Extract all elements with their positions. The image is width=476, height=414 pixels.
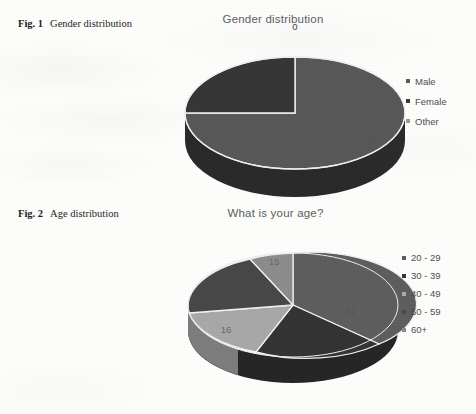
legend-label: 50 - 59 (411, 306, 441, 317)
legend-item-20-29[interactable]: 20 - 29 (402, 249, 441, 266)
pie-1-slice-female (185, 57, 295, 113)
legend-item-40-49[interactable]: 40 - 49 (402, 285, 441, 302)
legend-swatch-icon (406, 119, 410, 123)
pie-chart-2-svg (178, 233, 408, 383)
figure-1-label: Fig. 1 (18, 18, 43, 29)
chart-2-title: What is your age? (140, 207, 411, 219)
pie-1-label-male: 90 (365, 133, 376, 144)
chart-gender-distribution: Gender distribution 0 90 (150, 10, 476, 200)
legend-label: 30 - 39 (411, 270, 441, 281)
pie-2-label-20-29: 41 (345, 306, 356, 317)
figure-2-text: Age distribution (50, 208, 119, 219)
chart-1-legend: Male Female Other (406, 72, 447, 132)
figure-2-caption: Fig. 2Age distribution (18, 208, 119, 219)
pie-2-label-40-49: 16 (221, 324, 232, 335)
legend-swatch-icon (402, 256, 406, 260)
pie-chart-1-stage: 0 90 (180, 38, 410, 188)
legend-item-female[interactable]: Female (406, 92, 447, 110)
pie-1-label-other: 0 (292, 21, 297, 32)
legend-swatch-icon (402, 310, 406, 314)
legend-swatch-icon (402, 328, 406, 332)
figure-1-text: Gender distribution (50, 18, 132, 29)
pie-chart-1-svg (180, 38, 410, 188)
legend-item-other[interactable]: Other (406, 112, 447, 130)
legend-swatch-icon (402, 274, 406, 278)
chart-2-legend: 20 - 29 30 - 39 40 - 49 50 - 59 60+ (402, 249, 441, 339)
figure-1-caption: Fig. 1Gender distribution (18, 18, 132, 29)
pie-chart-2-stage: 41 16 21 15 (178, 233, 408, 383)
legend-label: Male (415, 76, 436, 87)
legend-swatch-icon (402, 292, 406, 296)
legend-swatch-icon (406, 79, 410, 83)
legend-item-male[interactable]: Male (406, 72, 447, 90)
legend-label: 20 - 29 (411, 252, 441, 263)
legend-label: 40 - 49 (411, 288, 441, 299)
legend-label: Other (415, 116, 439, 127)
legend-swatch-icon (406, 99, 410, 103)
pie-2-label-60plus: 15 (269, 256, 280, 267)
legend-label: 60+ (411, 324, 427, 335)
chart-age-distribution: What is your age? (150, 205, 476, 410)
legend-item-30-39[interactable]: 30 - 39 (402, 267, 441, 284)
legend-label: Female (415, 96, 447, 107)
legend-item-50-59[interactable]: 50 - 59 (402, 303, 441, 320)
chart-1-title: Gender distribution (140, 13, 406, 25)
figure-2-label: Fig. 2 (18, 208, 43, 219)
pie-2-label-50-59: 21 (216, 280, 227, 291)
legend-item-60plus[interactable]: 60+ (402, 321, 441, 338)
